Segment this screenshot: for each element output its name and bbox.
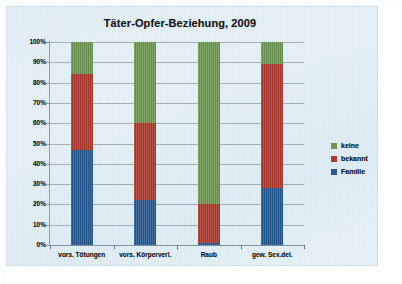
x-axis-tick [177,245,178,249]
bar-column [71,42,93,245]
bar-segment-familie [71,150,93,245]
y-axis-tick [46,144,50,145]
bar-segment-keine [71,42,93,74]
y-axis-labels: 100%90%80%70%60%50%40%30%20%10%0% [8,42,46,245]
legend-label: bekannt [341,155,368,162]
y-axis-label: 20% [8,200,46,207]
y-axis-label: 90% [8,58,46,65]
y-axis-tick [46,62,50,63]
x-axis-label: vors. Körperverl. [114,251,178,258]
x-axis-label: Raub [177,251,241,258]
x-axis-label: gew. Sex.del. [241,251,305,258]
bar-column [261,42,283,245]
y-axis-label: 10% [8,221,46,228]
y-axis-tick [46,83,50,84]
y-axis-tick [46,164,50,165]
bar-segment-familie [198,243,220,245]
y-axis-label: 30% [8,180,46,187]
y-axis-tick [46,123,50,124]
bar-segment-keine [198,42,220,204]
bar-segment-familie [134,200,156,245]
scan-margin-left [0,0,6,284]
legend-swatch-icon [331,143,337,149]
y-axis-label: 0% [8,241,46,248]
chart-page: Täter-Opfer-Beziehung, 2009 100%90%80%70… [0,0,402,284]
bar-column [134,42,156,245]
y-axis-tick [46,204,50,205]
scan-margin-right [378,0,402,284]
bar-segment-bekannt [261,64,283,188]
x-axis-tick [50,245,51,249]
y-axis-label: 40% [8,160,46,167]
legend-item-keine[interactable]: keine [331,139,368,152]
y-axis-label: 70% [8,99,46,106]
y-axis-label: 100% [8,38,46,45]
y-axis-label: 50% [8,140,46,147]
bar-segment-keine [134,42,156,123]
plot-area [50,42,304,245]
x-axis-label: vors. Tötungen [50,251,114,258]
legend-label: keine [341,142,359,149]
legend-swatch-icon [331,169,337,175]
x-axis-tick [241,245,242,249]
y-axis-label: 60% [8,119,46,126]
bar-segment-bekannt [198,204,220,243]
bar-segment-bekannt [71,74,93,149]
bar-column [198,42,220,245]
bar-segment-bekannt [134,123,156,200]
y-axis-tick [46,184,50,185]
legend-swatch-icon [331,156,337,162]
scan-margin-bottom [0,266,402,284]
y-axis-tick [46,103,50,104]
y-axis-tick [46,42,50,43]
x-axis-tick [304,245,305,249]
y-axis-tick [46,225,50,226]
bar-segment-familie [261,188,283,245]
scan-margin-top [0,0,402,6]
legend-item-familie[interactable]: Familie [331,165,368,178]
x-axis-tick [114,245,115,249]
bar-segment-keine [261,42,283,64]
legend-item-bekannt[interactable]: bekannt [331,152,368,165]
legend-label: Familie [341,168,365,175]
chart-legend: keinebekanntFamilie [331,139,368,178]
chart-title: Täter-Opfer-Beziehung, 2009 [55,17,305,29]
y-axis-label: 80% [8,79,46,86]
